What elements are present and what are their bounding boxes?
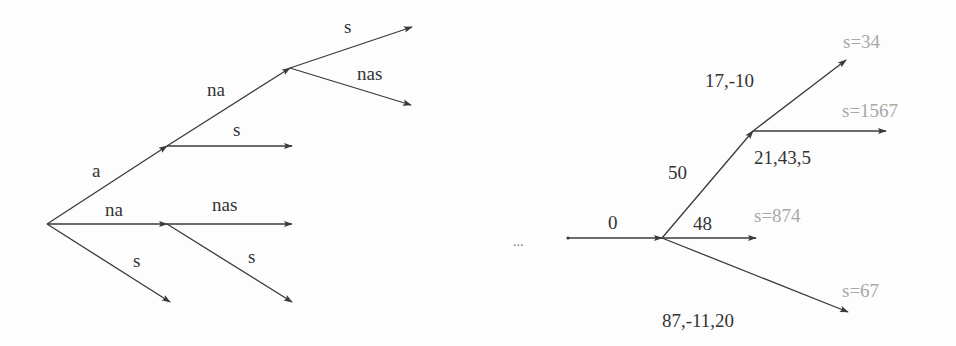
left-edge-label: nas (212, 194, 237, 215)
right-edge-label: 0 (608, 212, 618, 233)
leaf-score-label: s=67 (842, 280, 879, 301)
right-edge-label: 50 (668, 162, 687, 183)
ellipsis-text: ... (513, 234, 524, 249)
start-node-dot (566, 236, 569, 239)
left-edge (167, 68, 290, 146)
left-edge-label: s (233, 119, 240, 140)
right-edge-label: 87,-11,20 (662, 310, 734, 331)
left-edge-label: s (133, 250, 140, 271)
left-edge (167, 224, 292, 302)
left-decision-tree: anasnassnanasss (47, 16, 412, 302)
left-edge (290, 68, 411, 105)
right-edge (662, 238, 848, 312)
left-edge-label: nas (357, 63, 382, 84)
leaf-score-label: s=1567 (842, 100, 898, 121)
right-scored-tree: 05017,-1021,43,54887,-11,20s=34s=1567s=8… (566, 31, 898, 331)
left-edge-label: s (344, 16, 351, 37)
left-edge-label: s (248, 246, 255, 267)
diagram-canvas: anasnassnanasss 05017,-1021,43,54887,-11… (0, 0, 956, 346)
right-edge-label: 21,43,5 (754, 147, 811, 168)
left-edge-label: na (207, 79, 226, 100)
tree-diagrams: anasnassnanasss 05017,-1021,43,54887,-11… (0, 0, 956, 346)
left-edge (47, 224, 170, 302)
left-edge-label: na (105, 199, 124, 220)
right-edge-label: 17,-10 (705, 70, 754, 91)
leaf-score-label: s=874 (754, 205, 801, 226)
right-edge (753, 60, 846, 131)
right-edge-label: 48 (693, 213, 712, 234)
left-edge-label: a (92, 160, 101, 181)
leaf-score-label: s=34 (843, 31, 881, 52)
